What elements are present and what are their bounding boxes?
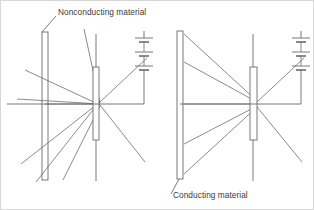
field-line: [257, 107, 302, 162]
aperture-plate: [250, 67, 257, 140]
field-line: [184, 106, 257, 144]
physics-field-line-figure: Nonconducting material Conducting materi…: [0, 0, 314, 210]
label-nonconducting-material: Nonconducting material: [58, 7, 146, 17]
battery-symbol: [135, 38, 153, 81]
field-line: [100, 105, 145, 162]
field-line: [184, 34, 257, 101]
field-line: [17, 99, 100, 104]
circuit-wire: [180, 81, 301, 104]
field-line: [21, 102, 100, 164]
field-lines-nonconducting: [17, 29, 147, 182]
field-line: [257, 58, 304, 102]
field-line: [100, 58, 147, 102]
figure-canvas: Nonconducting material Conducting materi…: [1, 1, 314, 210]
leader-line-top: [42, 16, 56, 32]
aperture-plate: [93, 67, 99, 140]
battery-symbol: [292, 38, 310, 81]
nonconducting-panel: [7, 29, 153, 182]
field-line: [184, 62, 257, 102]
conducting-slab: [177, 31, 183, 179]
field-line: [184, 107, 257, 174]
field-line: [25, 70, 100, 105]
conducting-panel: [177, 31, 310, 181]
label-conducting-material: Conducting material: [173, 190, 248, 200]
nonconducting-slab: [42, 32, 48, 180]
